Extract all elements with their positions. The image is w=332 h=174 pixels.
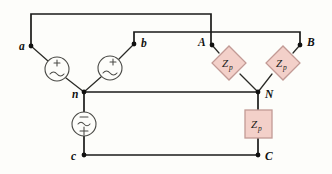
node-label-group: a b n c A B N C [19, 36, 315, 162]
node-label-b: b [141, 37, 147, 49]
node-dot-N [256, 90, 261, 95]
node-dot-A [210, 43, 215, 48]
node-label-c: c [71, 150, 76, 162]
lead-source2-to-n [84, 77, 101, 92]
wire-a-to-A [31, 14, 211, 46]
impedance-zp-C-label: Z [251, 118, 258, 130]
impedance-zp-A-subscript: p [228, 63, 233, 72]
wire-b-to-B [134, 32, 300, 45]
source-bn [98, 56, 122, 80]
node-label-n: n [72, 88, 78, 100]
node-dot-n [82, 90, 87, 95]
impedance-zp-C: Z p [245, 110, 272, 138]
impedance-zp-B-subscript: p [282, 63, 287, 72]
lead-zp-to-N [240, 74, 258, 92]
source-bn-body [98, 56, 122, 80]
node-label-B: B [306, 36, 315, 48]
lead-group [31, 44, 300, 92]
source-an [45, 57, 69, 81]
impedance-zp-C-subscript: p [257, 124, 262, 133]
impedance-zp-B-label: Z [276, 57, 283, 69]
node-dot-a [29, 44, 34, 49]
node-dot-group [29, 42, 303, 158]
impedance-zp-A-label: Z [222, 57, 229, 69]
node-label-a: a [19, 40, 25, 52]
node-dot-c [82, 153, 87, 158]
circuit-diagram-figure: Z p Z p Z p a b n [0, 0, 332, 174]
source-cn [72, 112, 96, 136]
node-dot-b [132, 42, 137, 47]
node-label-A: A [197, 36, 206, 48]
node-label-N: N [264, 88, 274, 100]
lead-a-to-source [31, 46, 48, 61]
node-dot-B [298, 43, 303, 48]
lead-b-to-source [119, 44, 134, 59]
node-label-C: C [265, 150, 273, 162]
node-dot-C [256, 153, 261, 158]
